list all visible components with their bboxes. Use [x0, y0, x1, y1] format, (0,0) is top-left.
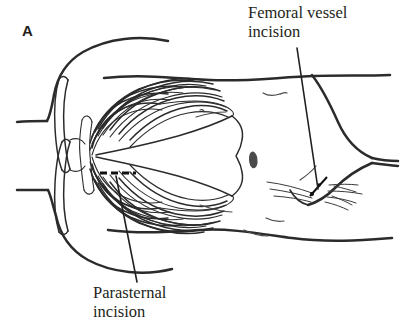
arm-edge-upper: [17, 121, 47, 122]
inguinal-hatch-4: [325, 202, 348, 210]
clavicle-lower: [55, 142, 62, 232]
femoral-incision-end-lower: [310, 192, 314, 196]
rib-cage-upper: [90, 78, 234, 155]
manubrium: [82, 116, 92, 122]
thigh-tip-lower: [372, 163, 398, 166]
parasternal-leader-line: [116, 176, 137, 282]
femoral-vessel-incision-label: Femoral vessel incision: [248, 3, 347, 41]
shoulder-upper-curve: [54, 38, 168, 95]
clavicle-upper-cap: [59, 76, 68, 80]
inguinal-crease-group: [267, 182, 362, 210]
clavicle-lower-inner: [64, 142, 70, 231]
parasternal-incision-label: Parasternal incision: [93, 283, 166, 321]
thigh-tip-upper: [372, 158, 398, 161]
shoulder-joint-upper: [70, 139, 85, 144]
skin-fold-right: [300, 166, 316, 180]
arm-edge-upper-join: [47, 95, 54, 121]
umbilicus: [250, 152, 257, 168]
rib-upper-9b: [130, 112, 228, 147]
abdomen-detail-group: [200, 93, 316, 236]
torso-upper-edge: [104, 75, 390, 80]
anatomical-illustration: [0, 0, 400, 333]
panel-label-a: A: [22, 22, 33, 39]
femoral-leader-line: [297, 48, 318, 189]
torso-lower-edge: [108, 230, 392, 241]
inguinal-line-1: [267, 182, 312, 193]
skin-fold-upper: [263, 93, 280, 95]
leader-lines-group: [116, 48, 318, 282]
costal-tip-notch: [232, 116, 243, 196]
figure-panel-a: A Femoral vessel incision Parasternal in…: [0, 0, 400, 333]
inguinal-hatch-1: [329, 184, 358, 185]
rib-lower-9b: [130, 165, 228, 200]
sternum-body: [80, 120, 84, 190]
clavicle-upper-foot: [62, 169, 70, 173]
costal-tip-group: [196, 112, 243, 212]
shoulder-joint-lower: [70, 166, 85, 171]
skin-fold-lower: [266, 218, 284, 221]
rib-cage-lower: [90, 157, 234, 234]
groin-fold: [290, 190, 308, 205]
torso-outline-group: [17, 38, 398, 273]
skin-fold-upper-2: [280, 93, 287, 94]
clavicle-lower-foot: [62, 139, 70, 142]
thigh-upper-contour: [312, 75, 372, 158]
inguinal-line-3: [274, 196, 311, 202]
xiphoid: [84, 190, 94, 194]
inguinal-hatch-2: [328, 191, 362, 194]
